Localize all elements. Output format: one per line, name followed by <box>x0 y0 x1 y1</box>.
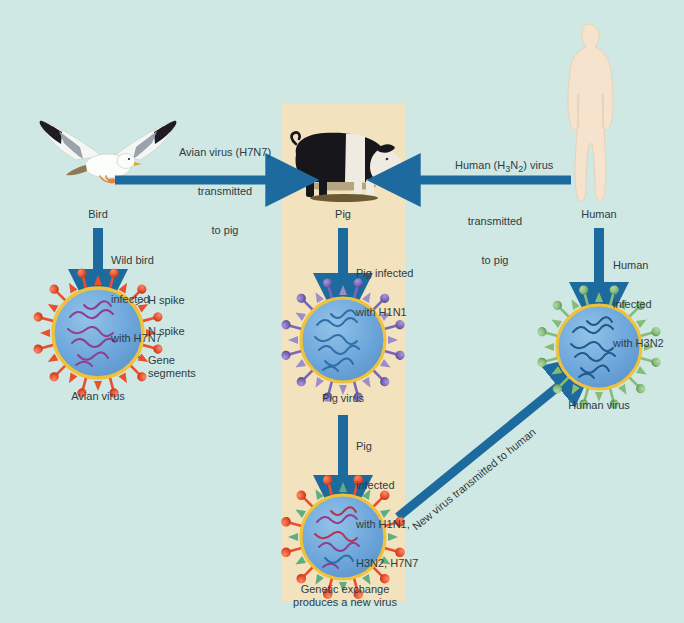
infection-label-human: Human infected with H3N2 <box>613 233 664 376</box>
infection-label-pig: Pig infected with H1N1 <box>356 241 413 345</box>
organism-label-bird: Bird <box>68 208 128 220</box>
human-virus-formula-post: ) virus <box>523 159 553 171</box>
callout-gene-segments: Gene segments <box>148 354 218 380</box>
callout-h-spike: H spike <box>148 294 185 307</box>
arrow-new-virus-to-human <box>398 385 560 517</box>
callout-n-spike: N spike <box>148 325 185 338</box>
infection-label-reassortment: Pig infected with H1N1, H3N2, H7N7 <box>356 414 418 596</box>
arrow-label-new-virus-to-human: New virus transmitted to human <box>410 426 538 533</box>
gene-segments-avian <box>68 301 115 366</box>
human-silhouette-icon <box>568 24 613 201</box>
organism-label-pig: Pig <box>313 208 373 220</box>
seagull-icon <box>40 121 177 184</box>
organism-label-human: Human <box>569 208 629 220</box>
virus-caption-human: Human virus <box>549 399 649 412</box>
arrow-label-bird-to-pig: Avian virus (H7N7) transmitted to pig <box>160 120 290 263</box>
gene-segments-human <box>571 317 615 378</box>
virus-caption-avian: Avian virus <box>48 390 148 403</box>
virus-caption-pig: Pig virus <box>303 392 383 405</box>
figure-canvas: Avian virus (H7N7) transmitted to pig Hu… <box>0 0 684 623</box>
virus-caption-new: Genetic exchange produces a new virus <box>286 583 404 609</box>
human-virus-formula-pre: Human (H <box>455 159 505 171</box>
arrow-label-human-to-pig: Human (H3N2) virus transmitted to pig <box>425 120 565 293</box>
